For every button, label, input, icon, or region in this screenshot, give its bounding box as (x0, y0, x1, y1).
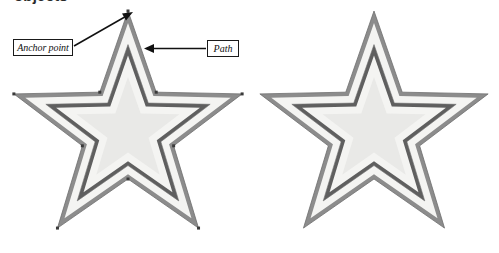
callout-anchor-point: Anchor point (13, 39, 73, 56)
right-star (260, 11, 488, 228)
anchor-point-marker (12, 92, 15, 95)
anchor-point-marker (127, 10, 130, 13)
anchor-point-marker (127, 178, 130, 181)
anchor-point-marker (98, 91, 101, 94)
callout-anchor-point-label: Anchor point (17, 43, 68, 53)
stars-illustration (0, 0, 499, 253)
figure-canvas: objects (0, 0, 499, 253)
anchor-point-marker (155, 91, 158, 94)
anchor-point-marker (172, 144, 175, 147)
callout-path: Path (207, 40, 239, 57)
anchor-point-marker (56, 227, 59, 230)
callout-path-label: Path (214, 44, 233, 54)
anchor-point-marker (81, 144, 84, 147)
anchor-point-marker (197, 227, 200, 230)
path-arrowhead (144, 44, 154, 53)
anchor-point-marker (241, 92, 244, 95)
